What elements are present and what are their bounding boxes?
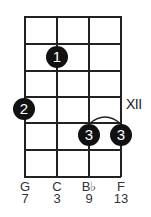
finger-dot-2: 2 <box>13 98 35 120</box>
chord-diagram: 1 2 3 3 XII G 7 C 3 B♭ 9 F 13 <box>0 0 151 217</box>
finger-dot-3-bb: 3 <box>78 124 100 146</box>
string-degree-c: 3 <box>42 192 72 205</box>
string-degree-g: 7 <box>10 192 40 205</box>
finger-dot-3-f: 3 <box>110 124 132 146</box>
string-degree-bb: 9 <box>74 192 104 205</box>
string-degree-f: 13 <box>106 192 136 205</box>
finger-dot-1: 1 <box>46 46 68 68</box>
position-marker: XII <box>126 96 142 112</box>
